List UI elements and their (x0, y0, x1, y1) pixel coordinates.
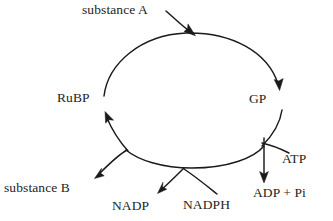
arrowhead-to-nadp (158, 182, 167, 193)
arrow-path-to-substance-b (99, 150, 127, 174)
arrowhead-to-gp (274, 79, 283, 91)
arrow-path-rubp-to-gp (104, 33, 278, 96)
arrow-path-to-nadp (161, 168, 184, 190)
node-label-substance-b: substance B (4, 181, 70, 195)
node-label-adp-pi: ADP + Pi (253, 186, 306, 200)
node-label-nadph: NADPH (183, 198, 230, 212)
node-label-rubp: RuBP (57, 91, 90, 105)
arrow-path-gp-down (262, 110, 282, 146)
node-label-nadp: NADP (112, 199, 149, 213)
arrow-path-to-rubp (107, 118, 128, 151)
arrow-path-cycle-bottom (126, 146, 264, 168)
arrowhead-substance-a (184, 24, 196, 36)
node-label-substance-a: substance A (82, 3, 148, 17)
calvin-cycle-diagram: substance A RuBP GP ATP ADP + Pi substan… (0, 0, 333, 221)
arrow-path-nadph-in (184, 169, 217, 194)
node-label-atp: ATP (282, 152, 306, 166)
node-label-gp: GP (249, 92, 266, 106)
